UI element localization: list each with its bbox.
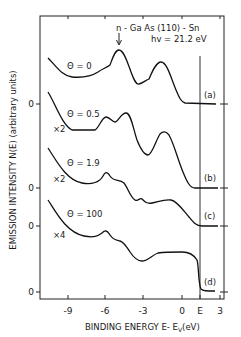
x-tick-label: -3 [139,306,148,316]
y-zero-label: 0 [28,99,34,109]
chart-title: n - Ga As (110) - Sn [116,23,199,33]
x-tick-label: 0 [179,306,185,316]
curve-a-label: Θ = 0 [67,61,92,71]
curve-tag-d: (d) [204,277,216,287]
curve-b-label: Θ = 0.5 [67,109,100,119]
x-tick-label: E [197,306,203,316]
scale-factor-c: ×2 [53,174,66,184]
x-axis-label: BINDING ENERGY E- EV(eV) [85,322,200,333]
y-zero-label: 0 [28,287,34,297]
curve-a [48,50,216,104]
curve-tag-b: (b) [204,173,216,183]
curve-b [48,92,218,188]
x-axis-ticks [68,295,220,299]
chart-subtitle: hv = 21.2 eV [151,34,207,44]
curve-tag-a: (a) [204,90,216,100]
curve-tag-c: (c) [204,211,215,221]
curve-d-label: Θ = 100 [67,209,102,219]
y-zero-ticks-left [36,104,40,292]
y-axis-label: EMISSION INTENSITY N(E) (arbitrary units… [8,70,18,249]
x-tick-label: 3 [217,306,223,316]
x-tick-label: -6 [101,306,110,316]
y-zero-label: 0 [28,221,34,231]
x-tick-label: -9 [64,306,73,316]
photoemission-chart: -9 -6 -3 0 E 3 0 0 0 0 n - Ga As (110) -… [0,0,241,337]
y-zero-label: 0 [28,183,34,193]
scale-factor-b: ×2 [53,124,66,134]
peak-arrow-icon [117,33,122,45]
x-axis-label-unit: (eV) [182,322,200,332]
scale-factor-d: ×4 [53,230,66,240]
curve-c-label: Θ = 1.9 [67,158,100,168]
x-axis-label-main: BINDING ENERGY E- E [85,322,178,332]
